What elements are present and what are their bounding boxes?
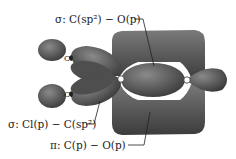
atom-cl-top: Cl xyxy=(64,54,73,63)
cl-top-outer-lobe xyxy=(38,39,66,61)
atom-cl-bottom: Cl xyxy=(64,90,73,99)
c-atom-node xyxy=(118,76,124,82)
label-sigma-c-o: σ: C(sp²) − O(p) xyxy=(55,13,141,25)
label-sigma-cl-c: σ: Cl(p) − C(sp²) xyxy=(8,118,96,130)
label-pi-c-o: π: C(p) − O(p) xyxy=(50,139,126,151)
cl-bottom-outer-lobe xyxy=(38,84,66,108)
sigma-co-lobe xyxy=(121,63,185,97)
orbital-diagram: σ: C(sp²) − O(p) σ: Cl(p) − C(sp²) π: C(… xyxy=(0,0,236,159)
o-atom-node xyxy=(184,77,190,83)
